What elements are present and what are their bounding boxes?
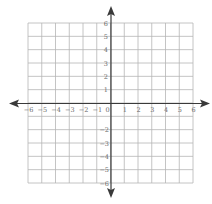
x-tick-label: 0 — [105, 106, 109, 114]
y-tick-label: −5 — [99, 166, 109, 174]
x-tick-labels: −6−5−4−3−2−10123456 — [24, 106, 196, 114]
x-tick-label: −6 — [24, 106, 34, 114]
coordinate-grid: −6−5−4−3−2−10123456 123456−2−3−4−5−6 — [0, 0, 212, 204]
x-tick-label: −4 — [51, 106, 61, 114]
x-tick-label: 2 — [136, 106, 140, 114]
y-tick-label: −3 — [99, 140, 109, 148]
x-tick-label: 4 — [164, 106, 168, 114]
x-tick-label: 3 — [150, 106, 154, 114]
x-tick-label: −2 — [79, 106, 89, 114]
x-tick-label: −3 — [65, 106, 75, 114]
y-tick-label: 2 — [104, 73, 108, 81]
y-tick-label: −6 — [99, 180, 109, 188]
y-tick-label: 1 — [104, 86, 108, 94]
x-tick-label: 5 — [178, 106, 182, 114]
x-tick-label: 1 — [123, 106, 127, 114]
x-tick-label: −1 — [92, 106, 102, 114]
y-tick-label: −2 — [99, 126, 109, 134]
y-tick-label: 5 — [104, 33, 108, 41]
axes — [9, 6, 210, 198]
x-tick-label: 6 — [191, 106, 195, 114]
y-tick-label: 3 — [104, 60, 108, 68]
y-tick-label: 6 — [104, 20, 108, 28]
y-tick-label: −4 — [99, 153, 109, 161]
y-tick-label: 4 — [104, 46, 108, 54]
x-tick-label: −5 — [37, 106, 47, 114]
